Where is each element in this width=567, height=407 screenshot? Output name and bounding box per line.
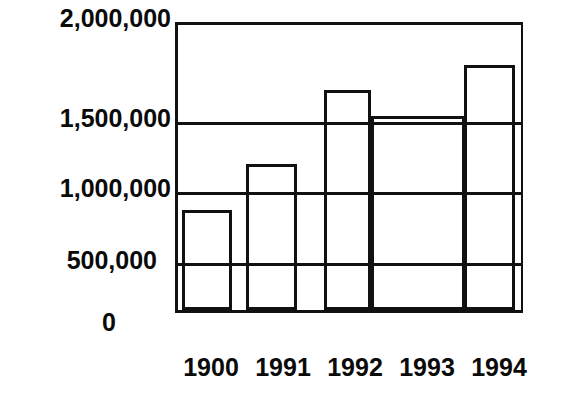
x-tick-label-1993: 1993 [391, 352, 463, 382]
bar-1991[interactable] [246, 164, 297, 310]
bar-chart: 2,000,000 1,500,000 1,000,000 500,000 0 … [0, 0, 567, 407]
bar-1993[interactable] [371, 116, 465, 310]
y-tick-label-500000: 500,000 [67, 248, 157, 273]
x-tick-label-1992: 1992 [319, 352, 391, 382]
x-tick-label-1900: 1900 [175, 352, 247, 382]
x-axis-labels: 1900 1991 1992 1993 1994 [175, 352, 535, 392]
y-tick-label-1500000: 1,500,000 [60, 106, 171, 131]
bar-1992[interactable] [324, 90, 371, 310]
bar-1900[interactable] [182, 210, 232, 310]
y-tick-label-2000000: 2,000,000 [60, 6, 171, 31]
x-tick-label-1994: 1994 [463, 352, 535, 382]
y-tick-label-1000000: 1,000,000 [60, 176, 171, 201]
plot-inner [178, 25, 521, 310]
plot-area [175, 22, 523, 313]
bar-1994[interactable] [464, 65, 515, 310]
y-axis-labels: 2,000,000 1,500,000 1,000,000 500,000 0 [0, 0, 171, 407]
x-tick-label-1991: 1991 [247, 352, 319, 382]
y-tick-label-0: 0 [102, 310, 116, 335]
